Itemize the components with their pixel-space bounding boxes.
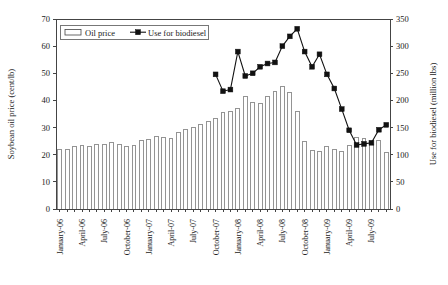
data-point-marker (325, 72, 330, 77)
data-point-marker (302, 49, 307, 54)
chart-container: 010203040506070050100150200250300350Janu… (0, 0, 448, 285)
data-point-marker (332, 86, 337, 91)
bar (177, 133, 181, 209)
y-tick-label-left: 10 (42, 177, 51, 187)
data-point-marker (295, 26, 300, 31)
bar (95, 145, 99, 209)
data-point-marker (354, 143, 359, 148)
bar (280, 87, 284, 209)
bar (65, 149, 69, 209)
data-point-marker (273, 60, 278, 65)
bar (340, 151, 344, 209)
bar (221, 112, 225, 209)
bar (184, 130, 188, 209)
x-axis-label: October-07 (212, 219, 221, 255)
y-tick-label-left: 30 (42, 123, 51, 133)
bar (214, 118, 218, 209)
data-point-marker (213, 72, 218, 77)
bar (362, 139, 366, 209)
y-tick-label-left: 40 (42, 95, 51, 105)
bar (206, 121, 210, 209)
bar (236, 108, 240, 209)
bar (80, 145, 84, 209)
x-axis-label: April-06 (78, 219, 87, 247)
bar (251, 102, 255, 209)
bar (377, 140, 381, 209)
data-point-marker (243, 74, 248, 79)
data-point-marker (258, 64, 263, 69)
x-axis-label: October-06 (123, 219, 132, 255)
bar (199, 125, 203, 209)
data-point-marker (369, 140, 374, 145)
legend-label-biodiesel: Use for biodiesel (148, 28, 207, 38)
data-point-marker (339, 107, 344, 112)
x-axis-label: July-08 (278, 219, 287, 243)
bar (243, 96, 247, 209)
legend-bar-swatch (65, 30, 81, 36)
data-point-marker (347, 128, 352, 133)
bar (325, 147, 329, 209)
y-tick-label-right: 0 (396, 204, 400, 214)
data-point-marker (317, 52, 322, 57)
data-point-marker (384, 122, 389, 127)
x-axis-label: January-09 (323, 219, 332, 255)
y-tick-label-right: 150 (396, 123, 409, 133)
y-tick-label-right: 350 (396, 14, 409, 24)
y-tick-label-left: 70 (42, 14, 51, 24)
bar (228, 111, 232, 209)
data-point-marker (250, 71, 255, 76)
bar (370, 144, 374, 209)
y-tick-label-right: 100 (396, 150, 409, 160)
x-axis-label: July-06 (100, 219, 109, 243)
y-tick-label-right: 50 (396, 177, 405, 187)
bar (384, 152, 388, 209)
bar (110, 142, 114, 209)
bar (295, 111, 299, 209)
legend-label-oil-price: Oil price (85, 28, 115, 38)
bar (117, 144, 121, 209)
y-tick-label-left: 0 (46, 204, 50, 214)
y-axis-title-left: Soybean oil price (cent/lb) (6, 69, 16, 160)
bar (258, 104, 262, 209)
y-tick-label-left: 20 (42, 150, 51, 160)
y-tick-label-left: 60 (42, 41, 51, 51)
data-point-marker (228, 87, 233, 92)
bar (125, 147, 129, 209)
bar (132, 145, 136, 209)
x-axis-label: January-08 (234, 219, 243, 255)
bar (266, 96, 270, 209)
x-axis-label: July-07 (189, 219, 198, 243)
data-point-marker (310, 64, 315, 69)
bar (58, 150, 62, 209)
data-point-marker (376, 127, 381, 132)
y-tick-label-right: 200 (396, 95, 409, 105)
bar (310, 151, 314, 209)
data-point-marker (287, 34, 292, 39)
data-point-marker (280, 44, 285, 49)
bar (139, 140, 143, 209)
bar (318, 151, 322, 209)
bar (332, 149, 336, 209)
y-tick-label-left: 50 (42, 68, 51, 78)
x-axis-label: April-07 (167, 219, 176, 247)
x-axis-label: October-08 (301, 219, 310, 255)
data-point-marker (265, 61, 270, 66)
y-tick-label-right: 300 (396, 41, 409, 51)
x-axis-label: January-06 (56, 219, 65, 255)
bar (169, 138, 173, 209)
bar (162, 137, 166, 209)
y-axis-title-right: Use for biodiesel (million lbs) (428, 63, 438, 166)
bar (347, 145, 351, 209)
x-axis-label: April-08 (256, 219, 265, 247)
bar (147, 140, 151, 209)
combo-chart: 010203040506070050100150200250300350Janu… (0, 0, 448, 285)
bar (303, 141, 307, 209)
bar (154, 136, 158, 209)
data-point-marker (235, 49, 240, 54)
legend-marker-swatch (136, 30, 141, 35)
data-point-marker (362, 141, 367, 146)
bar (87, 147, 91, 209)
biodiesel-line (216, 29, 387, 145)
y-tick-label-right: 250 (396, 68, 409, 78)
bar (73, 146, 77, 209)
